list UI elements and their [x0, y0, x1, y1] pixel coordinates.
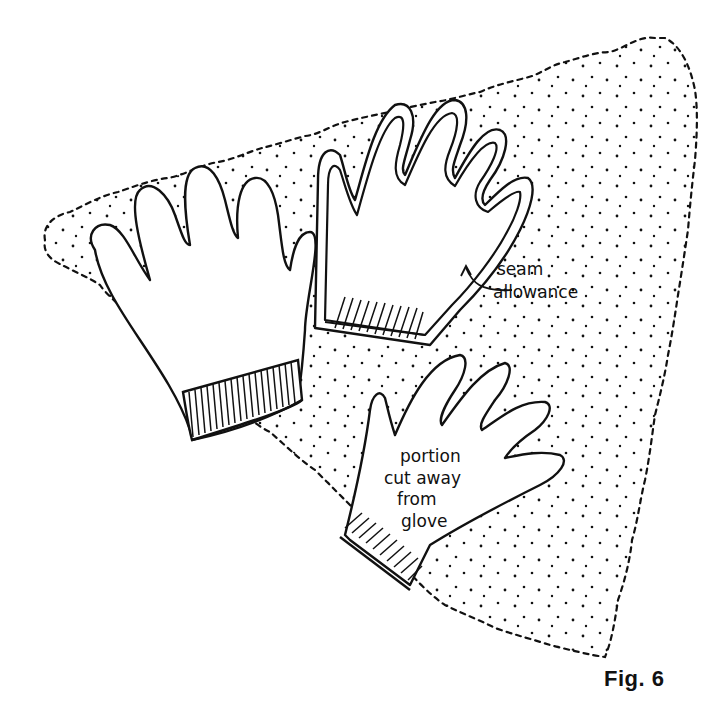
fabric-triangle	[45, 38, 697, 657]
glove-pattern-illustration: seam allowance portion cut away from glo…	[0, 0, 711, 710]
figure-caption: Fig. 6	[604, 666, 664, 692]
